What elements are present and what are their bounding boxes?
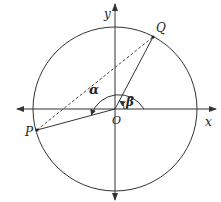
y-axis-label: y <box>103 7 111 21</box>
segment-op <box>37 109 115 130</box>
unit-circle-diagram: y x O Q P α β <box>0 0 221 202</box>
point-q-label: Q <box>156 21 166 35</box>
point-p-dot <box>35 128 38 131</box>
angle-beta-label: β <box>125 95 134 109</box>
point-q-dot <box>151 35 154 38</box>
point-p-label: P <box>24 125 34 139</box>
segment-oq <box>115 37 153 109</box>
x-axis-label: x <box>205 115 212 129</box>
angle-alpha-label: α <box>89 82 99 97</box>
origin-label: O <box>112 114 121 127</box>
angle-beta-arc <box>120 101 124 109</box>
